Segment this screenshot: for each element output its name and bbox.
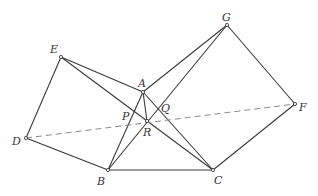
point-marker-E: [59, 55, 62, 58]
segment-FC: [213, 104, 295, 170]
solid-segments: [26, 25, 295, 170]
segment-AC: [143, 92, 213, 170]
point-marker-F: [293, 102, 296, 105]
segment-DB: [26, 138, 108, 170]
segment-AB: [108, 92, 143, 170]
point-label-E: E: [49, 43, 58, 56]
segment-EC: [61, 57, 213, 170]
point-label-C: C: [214, 174, 223, 187]
point-marker-A: [141, 90, 144, 93]
point-marker-B: [106, 168, 109, 171]
point-label-A: A: [137, 77, 146, 90]
segment-EA: [61, 57, 143, 92]
point-label-F: F: [298, 101, 307, 114]
vertex-markers: [24, 23, 296, 171]
segment-AG: [143, 25, 227, 92]
segment-BG: [108, 25, 227, 170]
point-label-R: R: [142, 126, 151, 139]
point-label-G: G: [222, 11, 231, 24]
segment-GF: [227, 25, 295, 104]
point-label-B: B: [96, 175, 105, 188]
point-marker-D: [24, 136, 27, 139]
point-marker-R: [145, 119, 148, 122]
point-marker-C: [211, 168, 214, 171]
segment-ED: [26, 57, 61, 138]
point-label-D: D: [11, 135, 21, 148]
point-label-P: P: [121, 110, 130, 123]
point-labels: ABCDEFGPQR: [11, 11, 307, 188]
point-label-Q: Q: [161, 102, 170, 115]
geometry-diagram: ABCDEFGPQR: [0, 0, 318, 196]
